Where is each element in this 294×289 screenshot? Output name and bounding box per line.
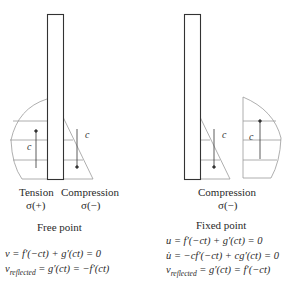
left-compression-label: Compression	[61, 186, 119, 198]
left-tension-wave	[10, 99, 47, 179]
right-compression-label: Compression	[198, 186, 256, 198]
left-tension-c-label: c	[27, 142, 31, 152]
reflected-subscript: reflected	[171, 269, 197, 278]
right-incident-wave	[200, 117, 230, 179]
left-compression-c-label: c	[85, 130, 89, 140]
right-reflected-arrow	[259, 120, 262, 159]
left-compression-sign: σ(−)	[81, 199, 100, 211]
fixed-point-caption: Fixed point	[196, 219, 246, 231]
tension-sign: σ(+)	[26, 199, 45, 211]
fixed-point-equation-1: u = f′(−ct) + g′(ct) = 0	[166, 235, 263, 247]
tension-label: Tension	[19, 186, 54, 198]
free-point-equation-1: v = f′(−ct) + g′(ct) = 0	[5, 248, 101, 260]
fixed-point-equation-2: u̇ = −cf′(−ct) + cg′(ct) = 0	[166, 250, 279, 262]
right-incident-c-label: c	[222, 130, 226, 140]
free-point-caption: Free point	[37, 221, 82, 233]
equation-rhs: = g′(ct) = −f′(ct)	[36, 263, 110, 274]
right-bar	[185, 15, 201, 180]
reflected-subscript: reflected	[10, 268, 36, 277]
free-point-equation-2: vreflected = g′(ct) = −f′(ct)	[5, 263, 109, 279]
left-tension-arrow	[35, 130, 38, 168]
equation-rhs: = g′(ct) = f′(−ct)	[197, 264, 271, 275]
left-compression-wave	[63, 117, 93, 179]
right-reflected-c-label: c	[249, 132, 253, 142]
fixed-point-equation-3: vreflected = g′(ct) = f′(−ct)	[166, 264, 270, 280]
right-compression-sign: σ(−)	[218, 199, 237, 211]
left-bar	[48, 15, 64, 180]
